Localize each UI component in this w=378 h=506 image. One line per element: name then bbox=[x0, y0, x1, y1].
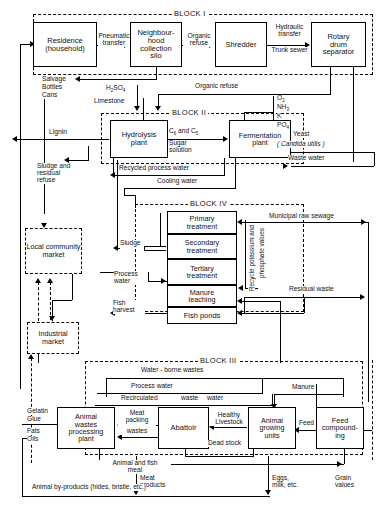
flow-c6-c5: C6 and C5 bbox=[169, 128, 198, 137]
flow-gelatin: Gelatin bbox=[27, 408, 48, 415]
rotary-line3: separator bbox=[322, 48, 356, 56]
flow-limestone: Limestone bbox=[94, 98, 124, 105]
hydrolysis-line2: plant bbox=[121, 139, 158, 147]
flow-feed: Feed bbox=[299, 420, 314, 427]
node-industrial-market[interactable]: Industrial market bbox=[27, 322, 79, 354]
block-4-label: BLOCK IV bbox=[188, 199, 229, 208]
flow-lignin: Lignin bbox=[49, 128, 67, 135]
flow-salvage: Salvage bbox=[42, 76, 66, 83]
node-neighbourhood-collection-silo[interactable]: Neighbour- hood collection silo bbox=[130, 22, 182, 67]
flow-waste-water: Waste water bbox=[288, 155, 324, 162]
node-rotary-drum-separator[interactable]: Rotary drum separator bbox=[311, 22, 366, 67]
flow-bottles: Bottles bbox=[42, 84, 62, 91]
flow-sludge: Sludge bbox=[120, 240, 141, 247]
node-animal-wastes-processing-plant[interactable]: Animal wastes processing plant bbox=[57, 407, 115, 449]
flow-cooling-water: Cooling water bbox=[157, 178, 197, 185]
fermentation-line2: plant bbox=[238, 139, 282, 146]
node-tertiary-treatment[interactable]: Tertiary treatment bbox=[167, 259, 237, 285]
flow-animal-by-products: Animal by-products (hides, bristle, etc.… bbox=[32, 484, 146, 491]
node-abattoir[interactable]: Abattoir bbox=[158, 407, 209, 449]
flow-water: water bbox=[207, 395, 223, 402]
flow-trunk-sewer: Trunk sewer bbox=[268, 47, 311, 54]
flow-sludge-residual-refuse: Sludge and residual refuse bbox=[37, 163, 85, 184]
flow-h2so4: H2SO4 bbox=[106, 85, 125, 94]
node-residence[interactable]: Residence (household) bbox=[33, 22, 97, 67]
flow-dead-stock: Dead stock bbox=[208, 440, 241, 447]
flow-organic-refuse-1: Organic refuse bbox=[183, 33, 215, 47]
node-secondary-treatment[interactable]: Secondary treatment bbox=[167, 234, 237, 259]
flow-po4: PO4 bbox=[277, 122, 289, 131]
silo-line4: silo bbox=[136, 52, 175, 60]
flow-process-water-block3: Process water bbox=[131, 383, 173, 390]
flow-grain-values: Grain values bbox=[335, 475, 375, 489]
flow-manure: Manure bbox=[292, 384, 314, 391]
flow-fats: Fats bbox=[27, 428, 40, 435]
node-feed-compounding[interactable]: Feed compound- ing bbox=[316, 407, 364, 449]
flow-hydraulic-transfer: Hydraulic transfer bbox=[268, 24, 311, 38]
flow-meat-products: Meat products bbox=[140, 475, 180, 489]
flow-cans: Cans bbox=[42, 92, 57, 99]
block-2-label: BLOCK II bbox=[170, 108, 208, 117]
flow-water-borne-wastes: Water - borne wastes bbox=[141, 367, 203, 374]
flow-healthy-livestock: Healthy Livestock bbox=[210, 412, 248, 426]
flow-recycled-process-water: Recycled process water bbox=[119, 165, 189, 172]
shredder-label: Shredder bbox=[225, 41, 258, 49]
node-manure-leaching[interactable]: Manure leaching bbox=[167, 285, 237, 307]
block-3-label: BLOCK III bbox=[198, 356, 238, 365]
node-animal-growing-units[interactable]: Animal growing units bbox=[248, 407, 296, 449]
flow-candida-utilis: ( Candida utilis ) bbox=[277, 141, 325, 148]
flow-oils: Oils bbox=[27, 436, 38, 443]
node-shredder[interactable]: Shredder bbox=[215, 22, 267, 67]
residence-line2: (household) bbox=[44, 45, 86, 53]
label-phosphate-values: phosphate values bbox=[258, 228, 265, 278]
flow-k: K bbox=[277, 113, 281, 120]
node-primary-treatment[interactable]: Primary treatment bbox=[167, 211, 237, 234]
flow-sugar-solution: Sugar solution bbox=[169, 140, 203, 154]
flow-organic-refuse-long: Organic refuse bbox=[195, 83, 238, 90]
flow-pneumatic-transfer: Pneumatic transfer bbox=[98, 33, 130, 47]
flow-process-water-block4: Process water bbox=[114, 271, 148, 285]
node-local-community-market[interactable]: Local community market bbox=[25, 228, 82, 274]
label-recycle-potassium: Recycle potassium and bbox=[248, 225, 255, 291]
flow-glue: Glue bbox=[27, 416, 41, 423]
flow-fish-harvest: Fish harvest bbox=[113, 300, 145, 314]
flow-municipal-raw-sewage: Municipal raw sewage bbox=[269, 213, 334, 220]
flow-residual-waste: Residual waste bbox=[289, 286, 334, 293]
flow-eggs-milk: Eggs, milk, etc. bbox=[272, 475, 318, 489]
flow-meat-packing-wastes: Meat packing wastes bbox=[118, 410, 156, 435]
flow-animal-fish-meal: Animal and fish meal bbox=[99, 460, 171, 474]
block-1-label: BLOCK I bbox=[172, 9, 208, 18]
flow-waste: waste bbox=[181, 395, 198, 402]
node-fish-ponds[interactable]: Fish ponds bbox=[167, 307, 237, 324]
flow-yeast: Yeast bbox=[293, 131, 309, 138]
node-hydrolysis-plant[interactable]: Hydrolysis plant bbox=[110, 120, 168, 158]
flow-diagram-canvas: BLOCK I Residence (household) Neighbour-… bbox=[0, 0, 378, 506]
flow-recirculated: Recirculated bbox=[121, 395, 158, 402]
